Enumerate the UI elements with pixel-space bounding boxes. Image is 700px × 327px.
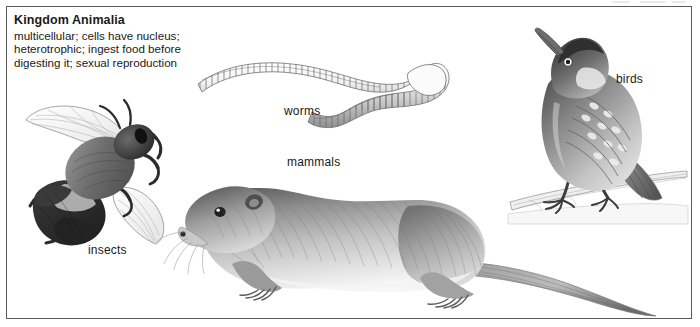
caption-line-1: multicellular; cells have nucleus; [14, 29, 244, 42]
label-insects: insects [88, 243, 127, 257]
figure-page: Kingdom Animalia multicellular; cells ha… [0, 0, 700, 327]
bird-eye [566, 60, 570, 64]
worm-illustration [196, 48, 481, 143]
caption-title: Kingdom Animalia [14, 13, 244, 28]
mammal-eye [214, 207, 225, 217]
bird-illustration [508, 24, 688, 224]
bird-head [535, 28, 609, 98]
scan-artifact [672, 1, 686, 3]
bird-beak [535, 28, 564, 56]
mammal-tail [463, 262, 656, 316]
scan-artifact [640, 1, 666, 3]
label-worms: worms [284, 104, 320, 118]
label-mammals: mammals [287, 155, 340, 169]
bee-wing-lower [113, 187, 164, 244]
scan-artifact [612, 1, 630, 3]
label-birds: birds [616, 72, 643, 86]
insect-illustration [8, 92, 173, 247]
